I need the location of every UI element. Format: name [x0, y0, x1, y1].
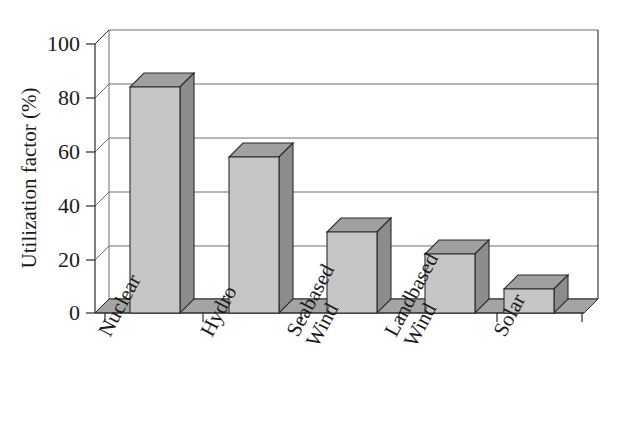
bar-hydro[interactable] — [229, 143, 293, 313]
y-tick-label-0: 0 — [69, 300, 80, 325]
y-tick-label-20: 20 — [58, 247, 80, 272]
bar-hydro-front — [229, 157, 279, 313]
bar-nuclear[interactable] — [130, 73, 194, 313]
bar-seabased-wind-side — [377, 218, 391, 313]
chart-figure: 100 80 60 40 20 0 Utilization factor (%) — [0, 0, 632, 441]
bar-hydro-side — [279, 143, 293, 313]
bar-landbased-wind[interactable] — [425, 240, 489, 313]
y-tick-label-40: 40 — [58, 193, 80, 218]
y-tick-label-60: 60 — [58, 139, 80, 164]
bar-nuclear-side — [180, 73, 194, 313]
bar-seabased-wind[interactable] — [327, 218, 391, 313]
y-axis-title: Utilization factor (%) — [17, 88, 41, 269]
y-tick-label-80: 80 — [58, 85, 80, 110]
bar-chart-svg: 100 80 60 40 20 0 Utilization factor (%) — [0, 0, 632, 441]
y-tick-label-100: 100 — [47, 31, 80, 56]
